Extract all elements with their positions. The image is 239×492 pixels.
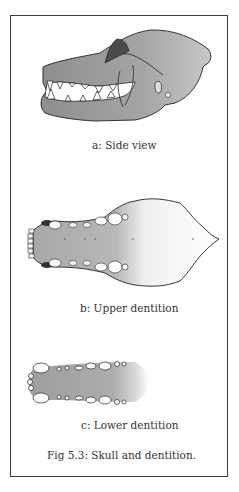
caption-upper-dentition: b: Upper dentition	[80, 302, 178, 314]
caption-side-view: a: Side view	[92, 139, 156, 151]
lower-dentition-illustration	[25, 358, 155, 408]
caption-lower-dentition: c: Lower dentition	[81, 419, 179, 431]
figure-caption: Fig 5.3: Skull and dentition.	[47, 449, 196, 461]
upper-dentition-illustration	[25, 195, 225, 295]
skull-side-view-illustration	[25, 25, 215, 125]
